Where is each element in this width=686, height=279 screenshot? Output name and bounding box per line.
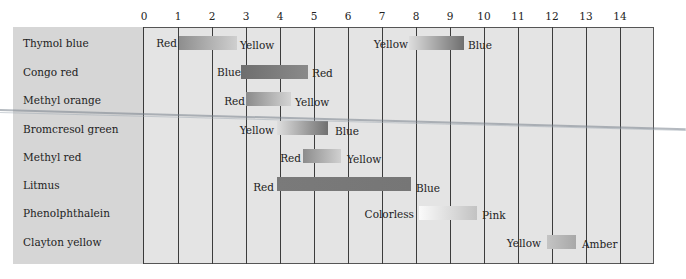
bar-methyl-red xyxy=(303,149,341,163)
gridline-9 xyxy=(450,27,451,264)
x-tick-7: 7 xyxy=(372,10,392,22)
methyl-orange-low-label: Red xyxy=(224,95,245,107)
bar-clayton-yellow xyxy=(547,235,576,249)
indicator-label-column xyxy=(13,27,144,264)
x-tick-11: 11 xyxy=(508,10,528,22)
row-label-litmus: Litmus xyxy=(23,179,60,191)
methyl-orange-high-label: Yellow xyxy=(295,96,329,108)
x-tick-1: 1 xyxy=(168,10,188,22)
methyl-red-low-label: Red xyxy=(280,152,301,164)
x-tick-0: 0 xyxy=(134,10,154,22)
bar-phenolphthalein xyxy=(419,206,477,220)
phenolphthalein-low-label: Colorless xyxy=(365,208,414,220)
x-tick-3: 3 xyxy=(236,10,256,22)
x-tick-9: 9 xyxy=(440,10,460,22)
x-tick-4: 4 xyxy=(270,10,290,22)
gridline-7 xyxy=(382,27,383,264)
bar-bromcresol-green xyxy=(277,121,328,135)
bar-methyl-orange xyxy=(246,92,291,106)
gridline-8 xyxy=(416,27,417,264)
row-label-methyl-orange: Methyl orange xyxy=(23,94,101,106)
litmus-low-label: Red xyxy=(253,181,274,193)
x-tick-12: 12 xyxy=(542,10,562,22)
bromcresol-low-label: Yellow xyxy=(240,124,274,136)
gridline-11 xyxy=(518,27,519,264)
thymol-acid-high-label: Yellow xyxy=(240,39,274,51)
gridline-3 xyxy=(246,27,247,264)
congo-high-label: Red xyxy=(312,67,333,79)
gridline-13 xyxy=(586,27,587,264)
x-tick-6: 6 xyxy=(338,10,358,22)
x-tick-8: 8 xyxy=(406,10,426,22)
row-label-thymol-blue: Thymol blue xyxy=(23,37,89,49)
phenolphthalein-high-label: Pink xyxy=(482,209,506,221)
bromcresol-high-label: Blue xyxy=(335,125,359,137)
bar-litmus xyxy=(277,177,411,191)
bar-thymol-blue-acid xyxy=(179,36,237,50)
x-tick-13: 13 xyxy=(576,10,596,22)
gridline-1 xyxy=(178,27,179,264)
x-tick-5: 5 xyxy=(304,10,324,22)
x-tick-2: 2 xyxy=(202,10,222,22)
row-label-methyl-red: Methyl red xyxy=(23,151,82,163)
row-label-phenolphthalein: Phenolphthalein xyxy=(23,207,110,219)
gridline-2 xyxy=(212,27,213,264)
gridline-4 xyxy=(280,27,281,264)
row-label-congo-red: Congo red xyxy=(23,66,78,78)
gridline-14 xyxy=(620,27,621,264)
litmus-high-label: Blue xyxy=(416,182,440,194)
row-label-clayton-yellow: Clayton yellow xyxy=(23,236,101,248)
thymol-acid-low-label: Red xyxy=(156,37,177,49)
congo-low-label: Blue xyxy=(217,66,241,78)
indicator-range-chart: 0 1 2 3 4 5 6 7 8 9 10 11 12 13 14 Thymo… xyxy=(0,0,686,279)
bar-congo-red xyxy=(241,65,308,79)
clayton-low-label: Yellow xyxy=(507,237,541,249)
thymol-base-low-label: Yellow xyxy=(374,38,408,50)
gridline-12 xyxy=(552,27,553,264)
methyl-red-high-label: Yellow xyxy=(347,153,381,165)
gridline-10 xyxy=(484,27,485,264)
clayton-high-label: Amber xyxy=(582,238,618,250)
thymol-base-high-label: Blue xyxy=(468,39,492,51)
gridline-6 xyxy=(348,27,349,264)
x-tick-14: 14 xyxy=(610,10,630,22)
row-label-bromcresol-green: Bromcresol green xyxy=(23,123,118,135)
x-tick-10: 10 xyxy=(474,10,494,22)
bar-thymol-blue-base xyxy=(409,36,464,50)
gridline-5 xyxy=(314,27,315,264)
